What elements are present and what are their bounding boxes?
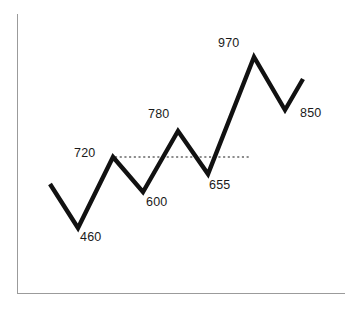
data-label-720: 720 — [74, 147, 95, 160]
data-label-850: 850 — [300, 107, 321, 120]
chart-canvas — [0, 0, 352, 312]
data-label-600: 600 — [146, 196, 167, 209]
data-label-655: 655 — [209, 179, 230, 192]
series-line-value — [50, 57, 303, 228]
line-chart-figure: 460 720 600 780 655 970 850 — [0, 0, 352, 312]
data-label-460: 460 — [80, 231, 101, 244]
data-label-780: 780 — [148, 108, 169, 121]
data-label-970: 970 — [218, 37, 239, 50]
